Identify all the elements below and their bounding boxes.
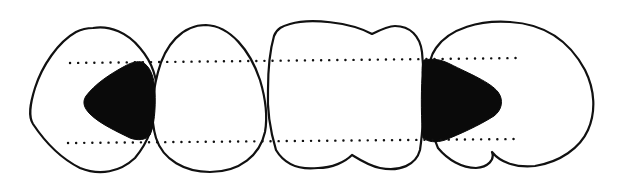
- teeth-diagram: [0, 0, 622, 177]
- tooth-2-outline: [152, 25, 266, 172]
- tooth-3-outline: [268, 21, 424, 169]
